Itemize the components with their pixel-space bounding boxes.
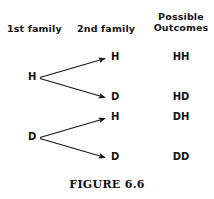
outcome-row1: HH [150, 52, 212, 62]
branch-node-first-family-h: H [28, 72, 36, 82]
outcome-row2: HD [150, 92, 212, 102]
figure-caption: FIGURE 6.6 [0, 178, 214, 191]
arrow-h-to-h [40, 59, 105, 78]
leaf-node-second-family-row1: H [111, 52, 119, 62]
outcome-row4: DD [150, 152, 212, 162]
arrow-h-to-d [40, 79, 105, 98]
probability-tree-figure: 1st family 2nd family Possible Outcomes … [0, 0, 214, 199]
arrow-d-to-h [40, 119, 105, 138]
leaf-node-second-family-row3: H [111, 112, 119, 122]
arrow-d-to-d [40, 139, 105, 158]
outcome-row3: DH [150, 112, 212, 122]
leaf-node-second-family-row2: D [111, 92, 119, 102]
leaf-node-second-family-row4: D [111, 152, 119, 162]
branch-node-first-family-d: D [28, 132, 36, 142]
